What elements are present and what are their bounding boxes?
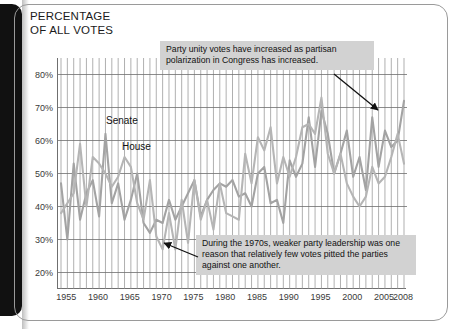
x-tick-label: 2000 (342, 292, 362, 302)
x-tick-label: 1995 (310, 292, 330, 302)
y-tick-label: 50% (35, 169, 53, 179)
y-tick-label: 30% (35, 235, 53, 245)
x-tick-label: 1980 (215, 292, 235, 302)
annotation-top: Party unity votes have increased as part… (160, 41, 374, 70)
y-tick-label: 20% (35, 268, 53, 278)
y-tick-label: 80% (35, 70, 53, 80)
x-tick-label: 1965 (120, 292, 140, 302)
x-tick-label: 1975 (183, 292, 203, 302)
x-tick-label: 1970 (152, 292, 172, 302)
x-tick-label: 1960 (88, 292, 108, 302)
page-title: PERCENTAGE OF ALL VOTES (30, 10, 113, 37)
y-tick-label: 70% (35, 103, 53, 113)
x-tick-label: 2008 (393, 292, 413, 302)
annotation-top-arrow (332, 72, 390, 120)
x-tick-label: 2005 (374, 292, 394, 302)
x-tick-label: 1990 (279, 292, 299, 302)
annotation-bottom: During the 1970s, weaker party leadershi… (196, 235, 416, 275)
series-label-senate: Senate (106, 115, 138, 126)
chart-page: PERCENTAGE OF ALL VOTES 20%30%40%50%60%7… (0, 0, 464, 329)
x-axis-labels: 1955196019651970197519801985199019952000… (57, 292, 417, 306)
x-tick-label: 1985 (247, 292, 267, 302)
y-axis-labels: 20%30%40%50%60%70%80% (18, 58, 53, 289)
annotation-bottom-arrow (160, 238, 202, 262)
y-tick-label: 60% (35, 136, 53, 146)
x-tick-label: 1955 (56, 292, 76, 302)
y-tick-label: 40% (35, 202, 53, 212)
series-label-house: House (122, 141, 151, 152)
